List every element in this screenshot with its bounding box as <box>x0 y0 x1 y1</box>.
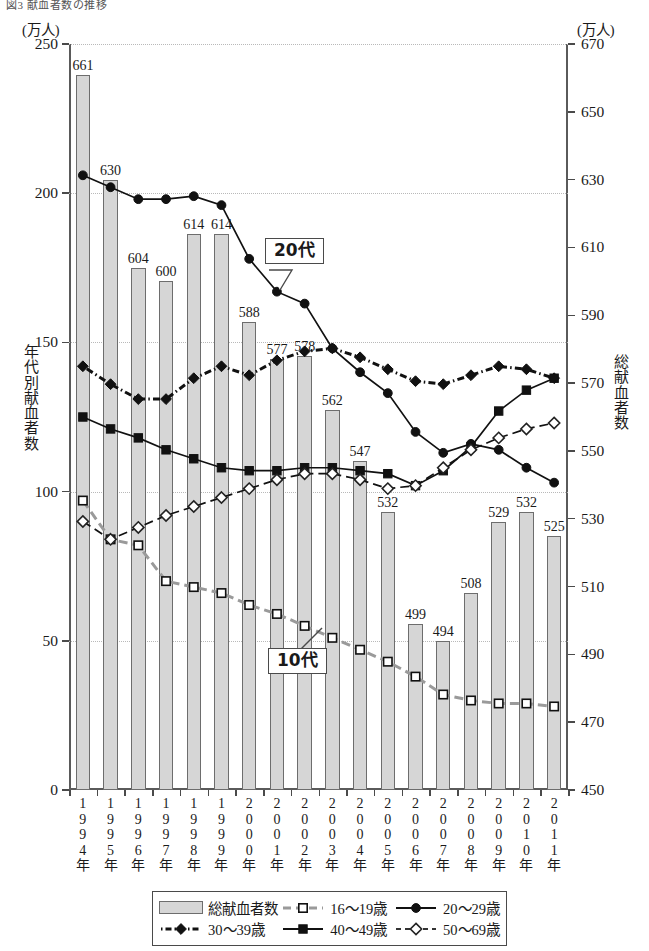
legend-row-2: 30〜39歳40〜49歳50〜69歳 <box>159 918 500 939</box>
x-axis-label-char: 9 <box>155 827 177 843</box>
axis-title-char: 別 <box>22 376 40 391</box>
legend-label: 30〜39歳 <box>208 918 265 939</box>
x-axis-label-char: 6 <box>127 843 149 859</box>
x-axis-label: 2006年 <box>405 796 427 874</box>
x-axis-label-char: 7 <box>155 843 177 859</box>
x-axis-label-char: 0 <box>349 827 371 843</box>
x-axis-label-char: 年 <box>543 858 565 874</box>
legend-symbol-svg <box>394 901 438 915</box>
legend-symbol-filled-diamond <box>159 922 203 936</box>
data-point <box>217 464 225 472</box>
axis-title-char: 献 <box>612 370 630 385</box>
legend-symbol-open-diamond <box>394 922 438 936</box>
data-point <box>355 352 366 363</box>
plot-area: 050100150200250 450470490510530550570590… <box>69 44 568 790</box>
left-tick <box>62 491 69 493</box>
x-axis-label-char: 7 <box>432 843 454 859</box>
x-axis-label-char: 8 <box>460 843 482 859</box>
legend-label: 総献血者数 <box>208 897 278 918</box>
x-axis-label: 2007年 <box>432 796 454 874</box>
x-axis-label-char: 2 <box>266 796 288 812</box>
x-axis-label: 2001年 <box>266 796 288 874</box>
data-point <box>79 496 87 504</box>
data-point <box>299 346 310 357</box>
right-tick-label: 590 <box>581 307 604 323</box>
data-point <box>271 474 282 485</box>
legend-symbol-svg <box>281 901 325 915</box>
legend-symbol-svg <box>394 922 438 936</box>
right-tick <box>568 450 575 452</box>
x-axis-label-char: 0 <box>294 827 316 843</box>
data-point <box>521 364 532 375</box>
x-axis-label-char: 2 <box>460 796 482 812</box>
x-axis-label-char: 0 <box>321 812 343 828</box>
x-axis-label-char: 0 <box>377 812 399 828</box>
x-axis-label-char: 4 <box>349 843 371 859</box>
legend-item: 総献血者数 <box>159 897 281 918</box>
data-point <box>217 589 225 597</box>
data-point <box>550 374 558 382</box>
axis-title-char: 献 <box>22 391 40 406</box>
x-axis-label-char: 9 <box>100 812 122 828</box>
data-point <box>382 483 393 494</box>
x-axis-label-char: 2 <box>349 796 371 812</box>
x-axis-label-char: 年 <box>488 858 510 874</box>
data-point <box>438 379 449 390</box>
right-tick-label: 630 <box>581 172 604 188</box>
x-axis-label: 2000年 <box>238 796 260 874</box>
series-40〜49歳 <box>79 374 559 490</box>
legend-symbol-filled-circle <box>394 901 438 915</box>
data-point <box>494 699 502 707</box>
legend-item: 50〜69歳 <box>394 918 500 939</box>
right-tick <box>568 247 575 249</box>
data-point <box>467 696 475 704</box>
x-axis-label-char: 6 <box>405 843 427 859</box>
x-axis-label-char: 8 <box>183 843 205 859</box>
left-tick-label: 0 <box>50 782 58 798</box>
series-line <box>83 378 554 485</box>
right-axis-title: 総献血者数 <box>612 355 630 431</box>
right-tick <box>568 654 575 656</box>
data-point <box>134 541 142 549</box>
data-point <box>300 299 309 308</box>
x-axis-label: 2003年 <box>321 796 343 874</box>
data-point <box>522 463 531 472</box>
data-point <box>106 425 114 433</box>
x-axis-label-char: 0 <box>432 812 454 828</box>
x-axis-label-char: 0 <box>266 827 288 843</box>
right-tick <box>568 721 575 723</box>
x-axis-label-char: 0 <box>460 827 482 843</box>
data-point <box>384 469 392 477</box>
data-point <box>550 478 559 487</box>
legend-symbol-open-square <box>281 901 325 915</box>
legend-label: 20〜29歳 <box>443 897 500 918</box>
x-axis-label-char: 年 <box>349 858 371 874</box>
x-axis-label-char: 0 <box>405 812 427 828</box>
x-axis-label-char: 2 <box>405 796 427 812</box>
x-axis-label-char: 2 <box>238 796 260 812</box>
x-axis-label-char: 0 <box>321 827 343 843</box>
callout-10dai: 10代 <box>268 648 327 674</box>
x-axis-label-char: 2 <box>377 796 399 812</box>
x-axis-label-char: 1 <box>127 796 149 812</box>
data-point <box>190 455 198 463</box>
callout-20dai-tail <box>255 258 325 298</box>
data-point <box>493 432 504 443</box>
data-point <box>521 423 532 434</box>
x-axis-label-char: 年 <box>377 858 399 874</box>
x-axis-label-char: 0 <box>238 827 260 843</box>
x-axis-label-char: 2 <box>321 796 343 812</box>
data-point <box>522 386 530 394</box>
left-tick <box>62 789 69 791</box>
left-tick-label: 200 <box>35 185 58 201</box>
callout-20dai: 20代 <box>265 238 324 264</box>
data-point <box>134 195 143 204</box>
x-axis-label-char: 年 <box>100 858 122 874</box>
data-point <box>133 522 144 533</box>
x-axis-label: 1995年 <box>100 796 122 874</box>
data-point <box>439 448 448 457</box>
data-point <box>439 690 447 698</box>
left-tick <box>62 192 69 194</box>
x-axis-label: 1996年 <box>127 796 149 874</box>
right-tick-label: 490 <box>581 646 604 662</box>
